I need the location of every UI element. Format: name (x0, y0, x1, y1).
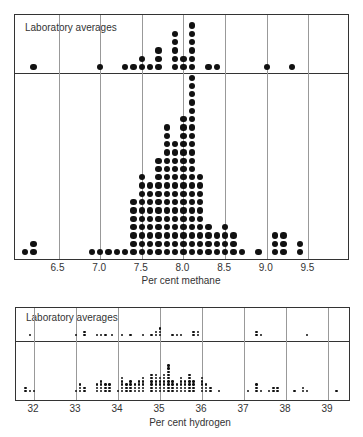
data-dot (24, 390, 26, 392)
x-tick-label: 33 (69, 403, 80, 414)
data-dot (180, 124, 186, 130)
methane-divider (15, 73, 348, 74)
data-dot (104, 383, 106, 385)
data-dot (155, 334, 157, 336)
data-dot (197, 174, 203, 180)
data-dot (171, 380, 173, 382)
data-dot (197, 216, 203, 222)
data-dot (89, 249, 95, 255)
data-dot (167, 377, 169, 379)
data-dot (172, 182, 178, 188)
data-dot (172, 64, 178, 70)
data-dot (239, 249, 245, 255)
data-dot (176, 334, 178, 336)
data-dot (272, 232, 278, 238)
data-dot (159, 327, 161, 329)
data-dot (164, 199, 170, 205)
data-dot (297, 249, 303, 255)
data-dot (139, 174, 145, 180)
data-dot (180, 141, 186, 147)
data-dot (189, 31, 195, 37)
data-dot (150, 387, 152, 389)
data-dot (189, 149, 195, 155)
data-dot (155, 377, 157, 379)
gridline (244, 308, 245, 400)
data-dot (159, 383, 161, 385)
data-dot (100, 387, 102, 389)
data-dot (100, 390, 102, 392)
data-dot (189, 224, 195, 230)
data-dot (172, 158, 178, 164)
data-dot (114, 249, 120, 255)
data-dot (184, 383, 186, 385)
data-dot (222, 232, 228, 238)
data-dot (147, 216, 153, 222)
data-dot (189, 116, 195, 122)
data-dot (180, 149, 186, 155)
data-dot (189, 56, 195, 62)
data-dot (180, 199, 186, 205)
data-dot (189, 124, 195, 130)
data-dot (138, 380, 140, 382)
data-dot (192, 383, 194, 385)
data-dot (121, 334, 123, 336)
data-dot (139, 64, 145, 70)
methane-chart: Laboratory averages (14, 14, 349, 260)
data-dot (139, 207, 145, 213)
data-dot (188, 377, 190, 379)
data-dot (280, 249, 286, 255)
data-dot (22, 249, 28, 255)
data-dot (139, 232, 145, 238)
data-dot (172, 191, 178, 197)
data-dot (230, 232, 236, 238)
data-dot (189, 133, 195, 139)
data-dot (180, 241, 186, 247)
data-dot (155, 191, 161, 197)
data-dot (192, 331, 194, 333)
data-dot (302, 387, 304, 389)
data-dot (155, 158, 161, 164)
gridline (118, 308, 119, 400)
data-dot (172, 232, 178, 238)
data-dot (276, 390, 278, 392)
data-dot (155, 390, 157, 392)
data-dot (209, 387, 211, 389)
data-dot (167, 364, 169, 366)
gridline (225, 15, 226, 259)
data-dot (150, 334, 152, 336)
data-dot (189, 64, 195, 70)
data-dot (79, 383, 81, 385)
data-dot (222, 249, 228, 255)
data-dot (130, 216, 136, 222)
data-dot (30, 249, 36, 255)
data-dot (96, 387, 98, 389)
data-dot (167, 380, 169, 382)
data-dot (255, 387, 257, 389)
data-dot (171, 334, 173, 336)
data-dot (139, 249, 145, 255)
data-dot (147, 191, 153, 197)
data-dot (214, 241, 220, 247)
hydrogen-x-label: Per cent hydrogen (149, 417, 231, 428)
data-dot (129, 380, 131, 382)
data-dot (147, 182, 153, 188)
data-dot (214, 232, 220, 238)
data-dot (108, 390, 110, 392)
data-dot (230, 241, 236, 247)
data-dot (180, 380, 182, 382)
data-dot (96, 383, 98, 385)
data-dot (180, 377, 182, 379)
data-dot (189, 174, 195, 180)
data-dot (164, 141, 170, 147)
gridline (308, 15, 309, 259)
data-dot (172, 249, 178, 255)
data-dot (163, 380, 165, 382)
data-dot (142, 390, 144, 392)
data-dot (155, 64, 161, 70)
data-dot (205, 383, 207, 385)
data-dot (171, 390, 173, 392)
data-dot (100, 383, 102, 385)
data-dot (164, 191, 170, 197)
data-dot (172, 39, 178, 45)
data-dot (138, 390, 140, 392)
